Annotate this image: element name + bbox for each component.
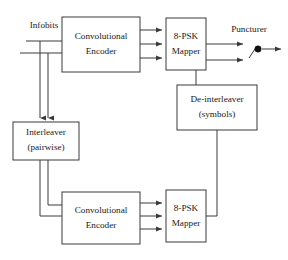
de-interleaver-label-line1: De-interleaver xyxy=(190,94,243,104)
wire-bottom-mapper-to-deinterleaver xyxy=(206,130,217,216)
interleaver-label-line2: (pairwise) xyxy=(27,142,64,152)
psk-mapper-bottom-label-line1: 8-PSK xyxy=(174,203,199,213)
block-conv-encoder-top xyxy=(62,17,140,72)
puncturer-label: Puncturer xyxy=(231,24,267,34)
psk-mapper-bottom-label-line2: Mapper xyxy=(172,218,201,228)
infobits-label: Infobits xyxy=(30,20,59,30)
diagram-canvas: Convolutional Encoder 8-PSK Mapper De-in… xyxy=(0,0,288,260)
de-interleaver-label-line2: (symbols) xyxy=(199,109,236,119)
block-diagram-figure: Convolutional Encoder 8-PSK Mapper De-in… xyxy=(0,0,288,260)
conv-encoder-top-label-line2: Encoder xyxy=(86,46,117,56)
interleaver-label-line1: Interleaver xyxy=(26,127,66,137)
block-psk-mapper-top xyxy=(166,18,206,70)
conv-encoder-top-label-line1: Convolutional xyxy=(75,31,128,41)
block-psk-mapper-bottom xyxy=(166,190,206,242)
conv-encoder-bottom-label-line2: Encoder xyxy=(86,220,117,230)
block-de-interleaver xyxy=(177,85,257,130)
conv-encoder-bottom-label-line1: Convolutional xyxy=(75,205,128,215)
psk-mapper-top-label-line2: Mapper xyxy=(172,46,201,56)
wire-interleaver-out-b xyxy=(48,160,62,205)
block-conv-encoder-bottom xyxy=(62,192,140,244)
puncturer-switch-node xyxy=(255,46,261,52)
wire-interleaver-out-a xyxy=(40,160,62,216)
psk-mapper-top-label-line1: 8-PSK xyxy=(174,31,199,41)
